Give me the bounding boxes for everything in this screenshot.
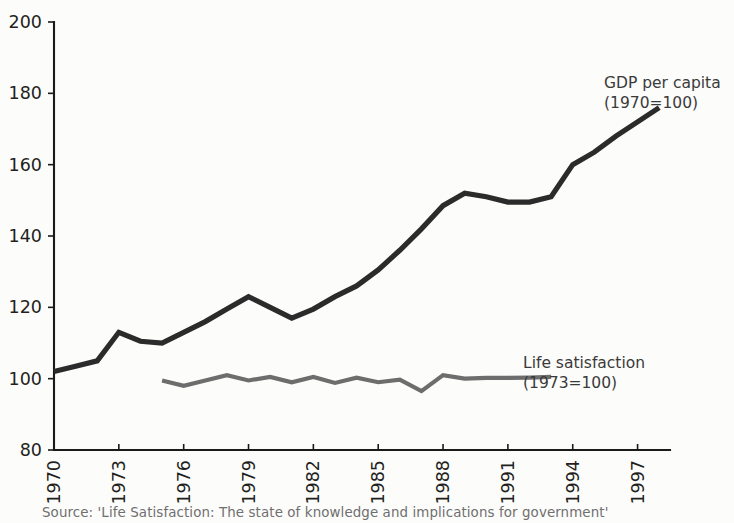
- gdp-annotation-line1: GDP per capita: [604, 74, 721, 92]
- life-satisfaction-annotation-line2: (1973=100): [523, 374, 617, 392]
- chart-figure: 80100120140160180200 1970197319761979198…: [0, 0, 734, 523]
- x-tick-label: 1997: [628, 460, 648, 505]
- chart-annotations: GDP per capita(1970=100)Life satisfactio…: [523, 74, 721, 392]
- x-axis-ticks: 1970197319761979198219851988199119941997: [44, 444, 648, 505]
- y-tick-label: 160: [9, 155, 42, 175]
- y-tick-label: 80: [20, 440, 42, 460]
- line-chart: 80100120140160180200 1970197319761979198…: [0, 0, 734, 523]
- life-satisfaction-annotation: Life satisfaction(1973=100): [523, 354, 645, 392]
- series-line-life-satisfaction: [162, 375, 551, 391]
- x-tick-label: 1979: [239, 460, 259, 505]
- x-tick-label: 1994: [563, 460, 583, 505]
- y-tick-label: 140: [9, 226, 42, 246]
- x-tick-label: 1982: [303, 460, 323, 505]
- x-tick-label: 1970: [44, 460, 64, 505]
- x-tick-label: 1988: [433, 460, 453, 505]
- y-axis-ticks: 80100120140160180200: [9, 12, 54, 460]
- gdp-annotation-line2: (1970=100): [604, 94, 698, 112]
- series-line-gdp-per-capita: [54, 108, 659, 372]
- y-tick-label: 100: [9, 369, 42, 389]
- series-lines: [54, 108, 659, 392]
- life-satisfaction-annotation-line1: Life satisfaction: [523, 354, 645, 372]
- gdp-annotation: GDP per capita(1970=100): [604, 74, 721, 112]
- y-tick-label: 180: [9, 83, 42, 103]
- x-tick-label: 1985: [368, 460, 388, 505]
- x-tick-label: 1973: [109, 460, 129, 505]
- source-caption: Source: 'Life Satisfaction: The state of…: [42, 505, 608, 520]
- y-tick-label: 200: [9, 12, 42, 32]
- y-tick-label: 120: [9, 297, 42, 317]
- x-tick-label: 1976: [174, 460, 194, 505]
- x-tick-label: 1991: [498, 460, 518, 505]
